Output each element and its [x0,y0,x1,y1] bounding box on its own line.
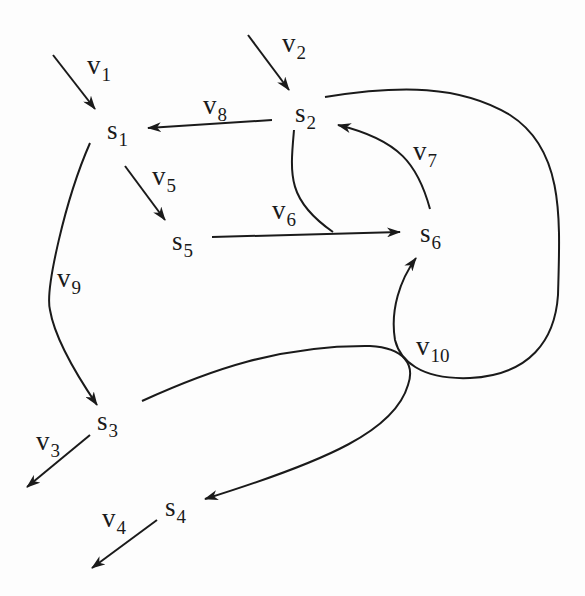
label-v2: v2 [282,30,306,62]
edge-v6-branch [292,130,333,232]
reaction-network-diagram: s1 s2 s3 s4 s5 s6 v1 v2 v3 v4 v5 v6 v7 v… [0,0,585,596]
label-v4: v4 [102,505,126,537]
label-v3: v3 [36,428,60,460]
label-v7: v7 [413,138,437,170]
node-s6: s6 [420,220,441,252]
label-v5: v5 [152,163,176,195]
node-s3: s3 [97,408,118,440]
label-v10: v10 [416,333,450,365]
node-s5: s5 [172,228,193,260]
node-s1: s1 [107,117,128,149]
node-s4: s4 [165,494,186,526]
node-s2: s2 [295,100,316,132]
label-v1: v1 [87,52,111,84]
edge-v10-s3-s4 [142,346,410,499]
label-v9: v9 [57,265,81,297]
label-v8: v8 [203,92,227,124]
edges-layer [0,0,585,596]
edge-v6 [212,232,400,237]
label-v6: v6 [272,197,296,229]
